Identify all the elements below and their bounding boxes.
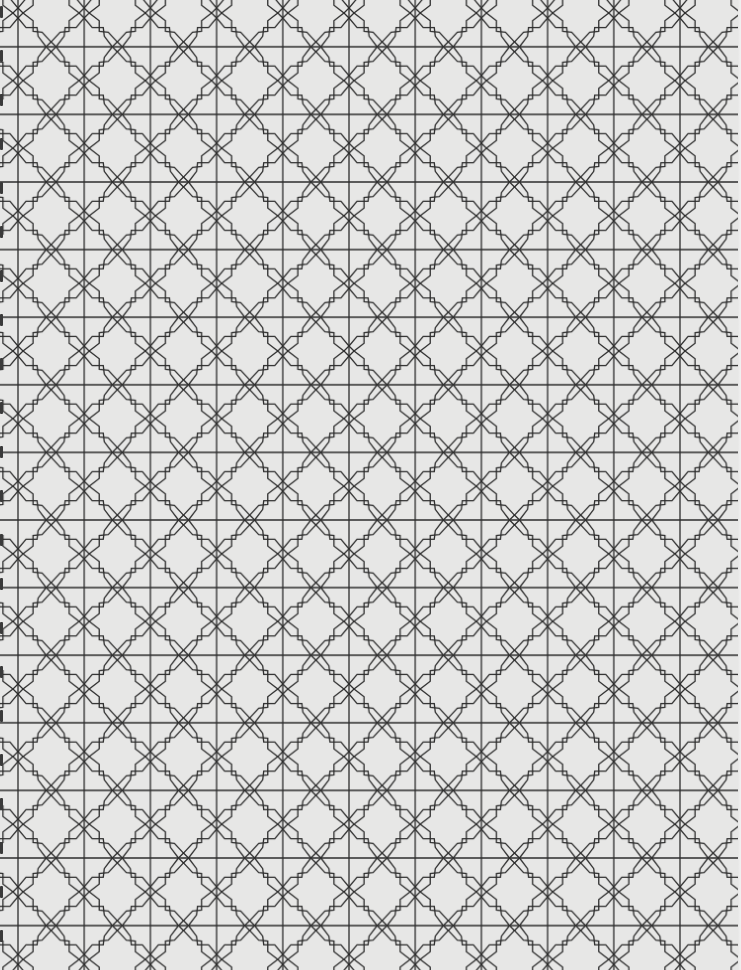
geometric-lattice-pattern [0, 0, 741, 970]
binding-mark [0, 182, 3, 194]
binding-mark [0, 578, 3, 590]
binding-mark [0, 886, 3, 898]
binding-mark [0, 50, 3, 62]
binding-mark [0, 710, 3, 722]
binding-mark [0, 138, 3, 150]
binding-mark [0, 842, 3, 854]
binding-mark [0, 446, 3, 458]
binding-mark [0, 314, 3, 326]
binding-mark [0, 358, 3, 370]
binding-mark [0, 622, 3, 634]
binding-mark [0, 930, 3, 942]
binding-mark [0, 534, 3, 546]
binding-mark [0, 754, 3, 766]
binding-mark [0, 490, 3, 502]
binding-mark [0, 6, 3, 18]
binding-mark [0, 94, 3, 106]
binding-mark [0, 226, 3, 238]
binding-mark [0, 798, 3, 810]
patterned-page [0, 0, 741, 970]
binding-mark [0, 402, 3, 414]
binding-mark [0, 666, 3, 678]
binding-mark [0, 270, 3, 282]
